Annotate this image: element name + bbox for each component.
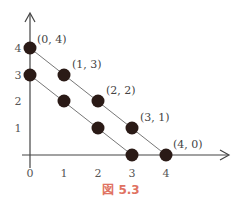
y-tick-2: 2 xyxy=(15,95,22,108)
point-1-3 xyxy=(58,69,71,82)
point-4-0 xyxy=(160,149,173,162)
x-tick-3: 3 xyxy=(129,167,136,180)
x-tick-2: 2 xyxy=(95,167,102,180)
label-2-2: (2, 2) xyxy=(106,84,136,97)
label-1-3: (1, 3) xyxy=(72,58,102,71)
point-2-1 xyxy=(92,122,105,135)
point-3-1 xyxy=(126,122,139,135)
y-tick-3: 3 xyxy=(15,69,22,82)
x-tick-0: 0 xyxy=(27,167,34,180)
lattice-diagram: 0 1 2 3 4 1 2 3 4 (0, 4) (1, 3) (2, 2) (… xyxy=(0,0,242,206)
y-tick-4: 4 xyxy=(15,42,22,55)
point-0-4 xyxy=(24,42,37,55)
x-tick-4: 4 xyxy=(163,167,170,180)
label-3-1: (3, 1) xyxy=(140,111,170,124)
point-2-2 xyxy=(92,95,105,108)
label-0-4: (0, 4) xyxy=(37,33,67,46)
point-3-0 xyxy=(126,149,139,162)
x-tick-1: 1 xyxy=(61,167,68,180)
figure-caption: 図 5.3 xyxy=(0,180,242,197)
point-0-3 xyxy=(24,69,37,82)
y-tick-1: 1 xyxy=(15,122,22,135)
point-1-2 xyxy=(58,95,71,108)
label-4-0: (4, 0) xyxy=(173,138,203,151)
